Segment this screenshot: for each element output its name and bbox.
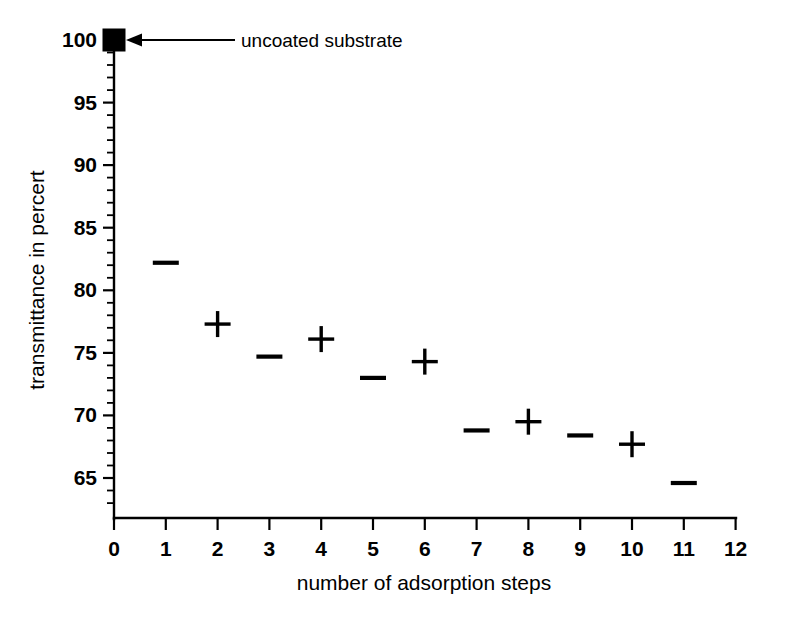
axis-spines bbox=[114, 34, 736, 519]
x-tick-label-10: 10 bbox=[620, 537, 643, 560]
x-tick-label-9: 9 bbox=[574, 537, 586, 560]
x-tick-label-7: 7 bbox=[471, 537, 483, 560]
y-axis-title: transmittance in percert bbox=[25, 170, 48, 390]
data-point-plus bbox=[515, 409, 541, 435]
x-axis-ticks bbox=[114, 518, 736, 530]
y-tick-label-70: 70 bbox=[74, 403, 97, 426]
data-point-square bbox=[103, 29, 125, 51]
y-axis-tick-labels: 100 95 90 85 80 75 70 65 bbox=[62, 28, 97, 489]
y-tick-label-85: 85 bbox=[74, 216, 98, 239]
uncoated-substrate-annotation: uncoated substrate bbox=[126, 30, 403, 51]
data-point-plus bbox=[308, 326, 334, 352]
x-tick-label-8: 8 bbox=[523, 537, 535, 560]
x-tick-label-6: 6 bbox=[419, 537, 431, 560]
x-tick-label-1: 1 bbox=[160, 537, 172, 560]
x-tick-label-0: 0 bbox=[108, 537, 120, 560]
annotation-label-uncoated-substrate: uncoated substrate bbox=[241, 30, 403, 51]
data-point-plus bbox=[412, 349, 438, 375]
x-tick-label-2: 2 bbox=[212, 537, 224, 560]
y-tick-label-100: 100 bbox=[62, 28, 97, 51]
y-tick-label-80: 80 bbox=[74, 278, 97, 301]
chart-figure: transmittance in percert number of adsor… bbox=[0, 0, 788, 622]
data-point-plus bbox=[619, 431, 645, 457]
y-tick-label-90: 90 bbox=[74, 153, 97, 176]
y-tick-label-75: 75 bbox=[74, 341, 98, 364]
y-tick-label-65: 65 bbox=[74, 466, 98, 489]
data-point-plus bbox=[205, 311, 231, 337]
y-tick-label-95: 95 bbox=[74, 91, 98, 114]
annotation-arrow-head bbox=[126, 34, 142, 47]
x-tick-label-5: 5 bbox=[367, 537, 379, 560]
x-axis-title: number of adsorption steps bbox=[297, 571, 551, 594]
data-point-group bbox=[103, 29, 697, 483]
x-tick-label-4: 4 bbox=[315, 537, 327, 560]
transmittance-scatter-chart: transmittance in percert number of adsor… bbox=[0, 0, 788, 622]
x-axis-tick-labels: 0 1 2 3 4 5 6 7 8 9 10 11 12 bbox=[108, 537, 747, 560]
y-axis-ticks bbox=[103, 40, 114, 503]
x-tick-label-12: 12 bbox=[724, 537, 747, 560]
x-tick-label-11: 11 bbox=[673, 537, 696, 560]
x-tick-label-3: 3 bbox=[264, 537, 276, 560]
